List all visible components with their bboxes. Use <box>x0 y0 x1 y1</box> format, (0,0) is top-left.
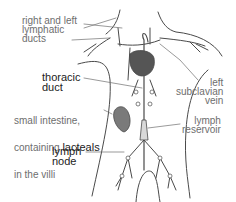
right-arm-vessels <box>84 38 110 56</box>
lymph-node-dot <box>136 102 140 106</box>
label-small-intestine: small intestine, containing lacteals in … <box>14 98 100 188</box>
label-left-subclavian-vein: left subclavian vein <box>176 78 223 105</box>
leader-thoracic-duct <box>84 78 142 88</box>
lymph-node-dot <box>158 156 162 160</box>
label-lymphatic-ducts: right and left lymphatic ducts <box>22 16 77 43</box>
lymph-node-dot <box>134 90 138 94</box>
leader-lymph-reservoir <box>148 124 180 128</box>
small-intestine <box>114 107 130 132</box>
label-small-intestine-line1: small intestine, <box>14 116 100 125</box>
label-small-intestine-line3: in the villi <box>14 170 100 179</box>
lower-branches <box>116 140 176 190</box>
thymus-organ <box>130 51 155 76</box>
lymph-reservoir-shape <box>140 120 148 140</box>
label-lymph-reservoir: lymph reservoir <box>182 116 221 134</box>
lymph-node-dot <box>168 174 172 178</box>
leader-subclavian-vein <box>160 44 198 80</box>
label-thoracic-duct: thoracic duct <box>42 72 81 92</box>
label-lymph-node: lymph node <box>52 146 81 166</box>
leader-lymphatic-ducts <box>72 18 122 40</box>
subclavian-veins <box>118 28 160 46</box>
lymph-node-dot <box>126 156 130 160</box>
lymph-node-dot <box>148 102 152 106</box>
body-outline-neck-right <box>158 12 222 56</box>
lymph-node-dot <box>120 174 124 178</box>
lymph-node-dot <box>150 90 154 94</box>
